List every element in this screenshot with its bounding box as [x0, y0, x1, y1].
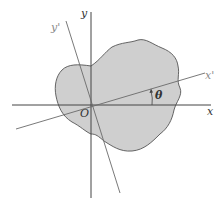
angle-theta-label: θ — [155, 90, 162, 101]
diagram-canvas: y y' x' x O θ — [0, 0, 223, 206]
x-prime-axis-label: x' — [205, 70, 214, 81]
x-axis-label: x — [207, 106, 213, 117]
origin-label: O — [80, 108, 89, 119]
y-prime-axis-label: y' — [51, 22, 60, 33]
y-axis-label: y — [81, 8, 87, 19]
diagram-svg — [0, 0, 223, 206]
